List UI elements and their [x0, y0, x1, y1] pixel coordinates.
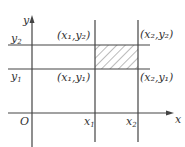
y-axis-arrow-icon [30, 15, 35, 23]
x2-label: x2 [126, 115, 137, 129]
point-label-x1y1: (x₁,y₁) [57, 71, 90, 84]
point-label-x2y2: (x₂,y₂) [140, 28, 173, 41]
point-label-x1y2: (x₁,y₂) [57, 29, 90, 42]
y-axis-label: y [22, 14, 30, 27]
origin-label: O [20, 115, 29, 128]
y1-label: y1 [10, 70, 22, 84]
x-axis-arrow-icon [166, 111, 174, 116]
x-axis-label: x [175, 113, 182, 126]
x1-label: x1 [84, 115, 95, 129]
y2-label: y2 [10, 32, 22, 46]
hatched-region [95, 45, 138, 69]
point-label-x2y1: (x₂,y₁) [140, 71, 173, 84]
coordinate-diagram: y x O y2 y1 x1 x2 (x₁,y₂) (x₂,y₂) (x₁,y₁… [0, 0, 185, 147]
